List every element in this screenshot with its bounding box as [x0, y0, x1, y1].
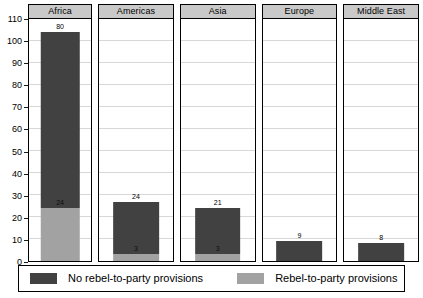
bar-europe: 9 [277, 241, 323, 261]
bar-value-label-rebel-to-party: 24 [56, 199, 64, 206]
y-axis-tick: 10 [12, 240, 28, 241]
panel-header-americas: Americas [98, 4, 174, 19]
panel-title: Africa [48, 7, 72, 16]
bar-segment-no-rebel-to-party [277, 241, 323, 261]
bars-layer: 213 [181, 19, 255, 261]
panel-asia: Asia213 [180, 4, 256, 262]
y-axis-tick-label: 110 [8, 15, 24, 24]
faceted-stacked-bar-chart: 1101009080706050403020100 Africa8024Amer… [0, 0, 423, 298]
y-axis-tick: 40 [12, 174, 28, 175]
legend-swatch-dark [30, 273, 57, 284]
panel-africa: Africa8024 [28, 4, 92, 262]
y-axis-tick-label: 40 [12, 169, 24, 178]
y-axis-tick-label: 60 [12, 125, 24, 134]
panel-title: Americas [117, 7, 155, 16]
legend-swatch-light [237, 273, 264, 284]
bars-layer: 8 [344, 19, 418, 261]
bar-value-label-no-rebel-to-party: 24 [132, 193, 140, 200]
bars-layer: 243 [99, 19, 173, 261]
y-axis-tick: 110 [8, 19, 28, 20]
panel-header-africa: Africa [28, 4, 92, 19]
panel-plot-area: 8024 [28, 19, 92, 262]
panel-plot-area: 9 [262, 19, 338, 262]
y-axis-tick: 30 [12, 196, 28, 197]
panel-americas: Americas243 [98, 4, 174, 262]
y-axis-tick: 100 [7, 41, 28, 42]
panel-title: Asia [209, 7, 227, 16]
bar-value-label-rebel-to-party: 3 [216, 245, 220, 252]
y-axis-tick: 60 [12, 129, 28, 130]
legend-entry-no-rebel-to-party: No rebel-to-party provisions [30, 273, 203, 284]
y-axis-tick: 50 [12, 152, 28, 153]
y-axis-tick-label: 20 [12, 213, 24, 222]
legend-label-dark: No rebel-to-party provisions [68, 273, 203, 284]
bar-segment-rebel-to-party [41, 208, 79, 261]
panel-title: Europe [285, 7, 315, 16]
y-axis-tick: 20 [12, 218, 28, 219]
y-axis-tick: 70 [12, 107, 28, 108]
bars-layer: 9 [263, 19, 337, 261]
panel-plot-area: 8 [343, 19, 419, 262]
y-axis-tick-label: 100 [7, 37, 24, 46]
bar-segment-rebel-to-party [195, 254, 241, 261]
y-axis-tick-mark [24, 262, 28, 263]
panel-header-asia: Asia [180, 4, 256, 19]
y-axis-tick: 80 [12, 85, 28, 86]
bar-segment-no-rebel-to-party [358, 243, 404, 261]
legend-entry-rebel-to-party: Rebel-to-party provisions [237, 273, 397, 284]
bar-value-label-no-rebel-to-party: 21 [214, 199, 222, 206]
y-axis-tick-label: 70 [12, 103, 24, 112]
bar-segment-rebel-to-party [113, 254, 159, 261]
y-axis: 1101009080706050403020100 [0, 19, 28, 262]
bar-segment-no-rebel-to-party [41, 32, 79, 208]
legend-label-light: Rebel-to-party provisions [275, 273, 397, 284]
y-axis-tick-label: 80 [12, 81, 24, 90]
y-axis-tick-label: 10 [12, 235, 24, 244]
bar-value-label-no-rebel-to-party: 80 [56, 23, 64, 30]
bar-value-label-rebel-to-party: 3 [134, 245, 138, 252]
bar-africa: 8024 [41, 32, 79, 261]
panel-header-europe: Europe [262, 4, 338, 19]
y-axis-tick: 0 [17, 262, 28, 263]
bar-middle-east: 8 [358, 243, 404, 261]
bars-layer: 8024 [29, 19, 91, 261]
chart-legend: No rebel-to-party provisions Rebel-to-pa… [18, 265, 405, 292]
panel-plot-area: 213 [180, 19, 256, 262]
y-axis-tick: 90 [12, 63, 28, 64]
panel-title: Middle East [357, 7, 405, 16]
panel-plot-area: 243 [98, 19, 174, 262]
panel-middle-east: Middle East8 [343, 4, 419, 262]
panel-header-middle-east: Middle East [343, 4, 419, 19]
panels-container: Africa8024Americas243Asia213Europe9Middl… [28, 4, 419, 262]
bar-asia: 213 [195, 208, 241, 261]
bar-americas: 243 [113, 202, 159, 261]
y-axis-tick-label: 50 [12, 147, 24, 156]
y-axis-tick-label: 30 [12, 191, 24, 200]
bar-value-label-no-rebel-to-party: 8 [379, 234, 383, 241]
bar-value-label-no-rebel-to-party: 9 [297, 232, 301, 239]
panel-europe: Europe9 [262, 4, 338, 262]
y-axis-tick-label: 90 [12, 59, 24, 68]
